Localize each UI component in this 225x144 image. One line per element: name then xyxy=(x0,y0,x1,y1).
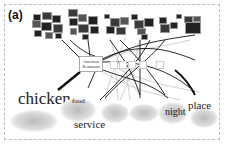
word-cloud-keyword-service: service xyxy=(74,118,105,130)
word-cloud-keyword-night: night xyxy=(165,106,186,117)
node-small-1[interactable] xyxy=(110,61,118,69)
word-cloud-4 xyxy=(129,104,159,122)
word-cloud-keyword-place: place xyxy=(188,99,211,111)
node-small-3[interactable] xyxy=(128,61,136,69)
node-small-2[interactable] xyxy=(119,61,127,69)
node-american-restaurant[interactable]: American Restaurant xyxy=(79,56,103,72)
word-cloud-1 xyxy=(10,110,58,132)
word-cloud-keyword-food: food xyxy=(72,97,85,105)
node-label-line2: Restaurant xyxy=(80,64,102,69)
node-small-4[interactable] xyxy=(139,61,147,69)
word-cloud-6 xyxy=(190,108,218,128)
node-small-5[interactable] xyxy=(156,61,164,69)
word-cloud-3 xyxy=(101,103,129,123)
